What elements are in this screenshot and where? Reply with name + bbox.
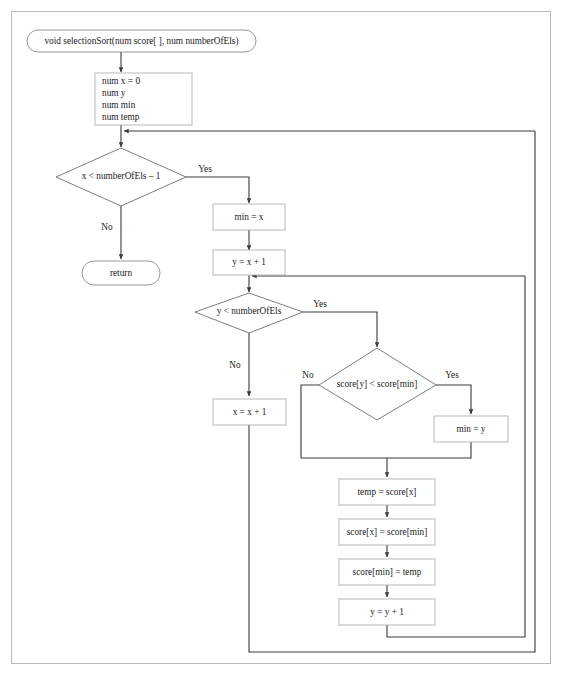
node-return-terminal[interactable]: return	[82, 261, 160, 285]
min-eq-y-label: min = y	[456, 424, 485, 434]
edge-min-eq-y-to-merge	[387, 442, 471, 458]
swap1-label: score[x] = score[min]	[347, 527, 428, 537]
cond-outer-label: x < numberOfEls – 1	[82, 171, 161, 181]
declaration-line-1: num x = 0	[102, 76, 140, 86]
node-swap2-box[interactable]: score[min] = temp	[339, 559, 435, 585]
node-cond-cmp-diamond[interactable]: score[y] < score[min]	[319, 348, 436, 420]
swap2-label: score[min] = temp	[353, 567, 422, 577]
edge-cond-outer-yes	[186, 177, 249, 203]
node-declarations-box[interactable]: num x = 0 num y num min num temp	[95, 73, 192, 125]
branch-label-cond-inner-no: No	[229, 360, 241, 370]
branch-label-cond-cmp-no: No	[302, 370, 314, 380]
x-inc-label: x = x + 1	[233, 407, 267, 417]
node-cond-outer-diamond[interactable]: x < numberOfEls – 1	[56, 148, 186, 206]
min-eq-x-label: min = x	[234, 212, 263, 222]
node-temp-set-box[interactable]: temp = score[x]	[339, 479, 435, 505]
branch-label-cond-cmp-yes: Yes	[445, 370, 459, 380]
cond-inner-label: y < numberOfEls	[217, 306, 282, 316]
return-terminal-label: return	[110, 268, 133, 278]
flowchart-page: void selectionSort(num score[ ], num num…	[0, 0, 563, 684]
y-inc-label: y = y + 1	[370, 607, 404, 617]
branch-label-cond-outer-yes: Yes	[198, 164, 212, 174]
node-y-init-box[interactable]: y = x + 1	[213, 250, 285, 275]
node-min-eq-x-box[interactable]: min = x	[213, 204, 285, 230]
node-start-terminal[interactable]: void selectionSort(num score[ ], num num…	[27, 30, 256, 52]
branch-label-cond-outer-no: No	[101, 222, 113, 232]
node-min-eq-y-box[interactable]: min = y	[434, 416, 508, 442]
node-x-inc-box[interactable]: x = x + 1	[213, 399, 286, 425]
edge-cond-inner-yes	[303, 312, 377, 347]
declaration-line-2: num y	[102, 88, 126, 98]
cond-cmp-label: score[y] < score[min]	[337, 379, 418, 389]
temp-set-label: temp = score[x]	[358, 487, 417, 497]
node-y-inc-box[interactable]: y = y + 1	[339, 599, 435, 625]
declaration-line-4: num temp	[102, 112, 140, 122]
declaration-line-3: num min	[102, 100, 136, 110]
flowchart-canvas: void selectionSort(num score[ ], num num…	[0, 0, 563, 684]
start-terminal-label: void selectionSort(num score[ ], num num…	[44, 36, 238, 47]
branch-label-cond-inner-yes: Yes	[313, 299, 327, 309]
node-swap1-box[interactable]: score[x] = score[min]	[339, 519, 435, 545]
node-cond-inner-diamond[interactable]: y < numberOfEls	[195, 293, 303, 333]
edge-cond-cmp-yes	[436, 385, 471, 414]
y-init-label: y = x + 1	[232, 257, 266, 267]
